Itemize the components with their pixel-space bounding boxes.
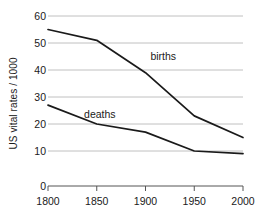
plot-area xyxy=(0,0,264,223)
x-tick-1900: 1900 xyxy=(126,196,166,207)
x-axis-line xyxy=(48,186,243,191)
x-tick-2000: 2000 xyxy=(223,196,263,207)
vital-rates-line-chart: US vital rates / 1000 0102030405060 1800… xyxy=(0,0,264,223)
series-lines xyxy=(48,30,243,154)
series-label-deaths: deaths xyxy=(84,109,116,120)
series-line-deaths xyxy=(48,105,243,154)
x-tick-1850: 1850 xyxy=(77,196,117,207)
x-tick-1950: 1950 xyxy=(174,196,214,207)
series-line-births xyxy=(48,30,243,138)
series-label-births: births xyxy=(150,51,176,62)
x-tick-1800: 1800 xyxy=(28,196,68,207)
